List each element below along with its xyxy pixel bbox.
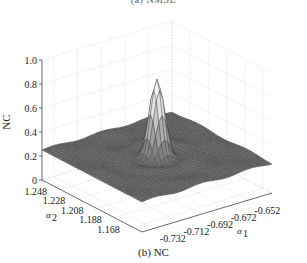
svg-text:NC: NC: [0, 114, 12, 129]
svg-text:-0.652: -0.652: [254, 205, 280, 216]
chart-title: (b) NC: [0, 246, 307, 258]
svg-text:1: 1: [243, 228, 248, 239]
svg-text:-0.712: -0.712: [183, 226, 209, 237]
svg-text:0.4: 0.4: [25, 127, 38, 138]
surface-mesh: [42, 79, 272, 202]
svg-text:0.2: 0.2: [25, 151, 38, 162]
svg-text:-0.692: -0.692: [207, 219, 233, 230]
svg-text:-0.672: -0.672: [231, 212, 257, 223]
svg-text:α: α: [237, 226, 242, 236]
svg-text:α: α: [46, 210, 51, 220]
svg-text:0.6: 0.6: [25, 103, 38, 114]
svg-text:1.168: 1.168: [97, 224, 120, 235]
svg-text:0: 0: [32, 175, 37, 186]
surface-plot: 00.20.40.60.81.0NC1.2481.2281.2081.1881.…: [0, 0, 307, 263]
svg-text:2: 2: [52, 212, 57, 223]
svg-text:1.0: 1.0: [25, 55, 38, 66]
svg-text:0.8: 0.8: [25, 79, 38, 90]
svg-text:-0.732: -0.732: [160, 233, 186, 244]
